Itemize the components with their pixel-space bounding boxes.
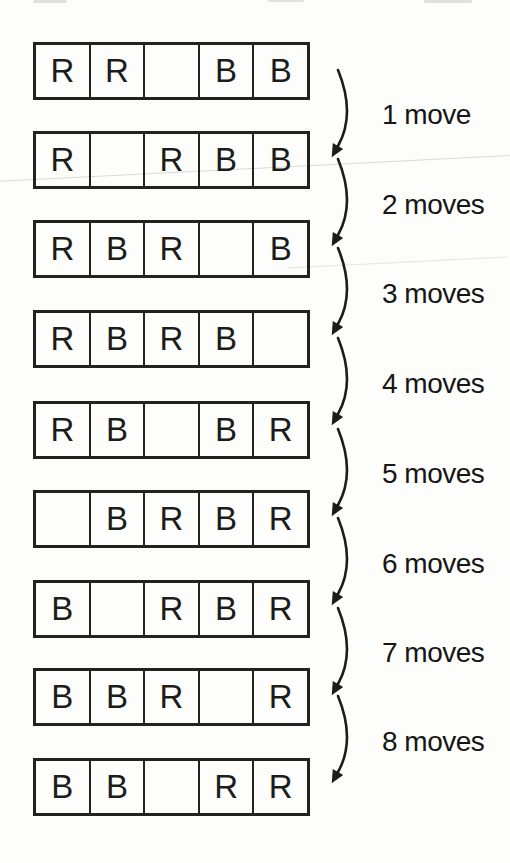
curved-arrow-icon (330, 336, 356, 430)
board-cell: R (145, 493, 200, 545)
board-cell: R (254, 761, 307, 813)
board-cell: R (200, 761, 255, 813)
board-cell (254, 313, 307, 365)
board-row-8: B B R R (33, 668, 310, 726)
board-cell: R (145, 223, 200, 275)
scan-artifact-line (287, 256, 507, 268)
curved-arrow-icon (330, 606, 356, 700)
board-cell: R (254, 583, 307, 635)
board-cell: B (91, 493, 146, 545)
board-cell: R (36, 45, 91, 97)
board-row-4: R B R B (33, 310, 310, 368)
curved-arrow-icon (330, 157, 356, 251)
board-cell (200, 671, 255, 723)
board-cell: R (36, 404, 91, 456)
board-cell: R (254, 671, 307, 723)
board-cell: R (145, 134, 200, 186)
board-cell: R (145, 671, 200, 723)
board-cell: B (200, 134, 255, 186)
board-cell (91, 583, 146, 635)
board-cell: B (36, 583, 91, 635)
board-cell: B (254, 223, 307, 275)
board-row-6: B R B R (33, 490, 310, 548)
board-cell (145, 45, 200, 97)
move-count-label: 8 moves (382, 725, 484, 759)
move-count-label: 5 moves (382, 457, 484, 491)
board-cell (145, 404, 200, 456)
board-cell: R (145, 313, 200, 365)
board-cell: B (91, 671, 146, 723)
move-count-label: 7 moves (382, 636, 484, 670)
board-row-1: R R B B (33, 42, 310, 100)
board-cell (36, 493, 91, 545)
move-count-label: 2 moves (382, 188, 484, 222)
board-cell: B (200, 404, 255, 456)
board-cell (200, 223, 255, 275)
board-cell: B (36, 671, 91, 723)
board-cell (91, 134, 146, 186)
board-cell: B (91, 404, 146, 456)
board-row-3: R B R B (33, 220, 310, 278)
board-cell: R (91, 45, 146, 97)
board-row-2: R R B B (33, 131, 310, 189)
board-cell: B (200, 583, 255, 635)
move-count-label: 1 move (382, 98, 471, 132)
board-cell: B (254, 134, 307, 186)
board-row-7: B R B R (33, 580, 310, 638)
board-cell: R (145, 583, 200, 635)
curved-arrow-icon (330, 246, 356, 340)
board-cell: R (36, 313, 91, 365)
board-cell: B (36, 761, 91, 813)
board-row-9: B B R R (33, 758, 310, 816)
board-cell: B (200, 493, 255, 545)
curved-arrow-icon (330, 427, 356, 521)
board-cell: B (91, 761, 146, 813)
board-cell: B (254, 45, 307, 97)
scan-artifact-smudge (424, 0, 472, 3)
scan-artifact-smudge (268, 0, 304, 2)
move-count-label: 6 moves (382, 547, 484, 581)
board-cell: B (91, 223, 146, 275)
board-cell: B (200, 45, 255, 97)
board-cell: R (254, 404, 307, 456)
board-cell: R (254, 493, 307, 545)
board-cell: R (36, 134, 91, 186)
move-count-label: 3 moves (382, 277, 484, 311)
board-cell (145, 761, 200, 813)
board-cell: R (36, 223, 91, 275)
curved-arrow-icon (330, 694, 356, 788)
scan-artifact-smudge (33, 0, 67, 3)
board-row-5: R B B R (33, 401, 310, 459)
curved-arrow-icon (330, 516, 356, 610)
board-cell: B (200, 313, 255, 365)
curved-arrow-icon (330, 68, 356, 162)
move-count-label: 4 moves (382, 367, 484, 401)
board-cell: B (91, 313, 146, 365)
